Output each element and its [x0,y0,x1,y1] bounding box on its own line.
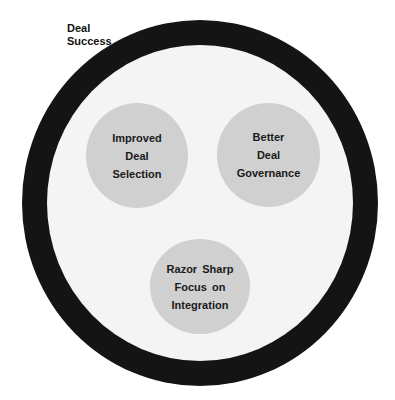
node-label-line: Deal [237,146,301,164]
node-label-line: Better [237,128,301,146]
label-line: Success [67,35,112,48]
deal-success-label: Deal Success [67,22,112,48]
node-label: Razor Sharp Focus on Integration [167,260,234,314]
node-label-line: Focus on [167,278,234,296]
node-improved-deal-selection: Improved Deal Selection [86,103,188,208]
node-label-line: Improved [112,129,162,147]
node-label: Improved Deal Selection [112,129,162,183]
node-label-line: Selection [112,165,162,183]
node-better-deal-governance: Better Deal Governance [217,103,320,207]
node-label-line: Razor Sharp [167,260,234,278]
node-label-line: Governance [237,164,301,182]
label-line: Deal [67,22,112,35]
node-razor-sharp-focus-on-integration: Razor Sharp Focus on Integration [150,239,250,334]
node-label: Better Deal Governance [237,128,301,182]
node-label-line: Deal [112,147,162,165]
node-label-line: Integration [167,296,234,314]
